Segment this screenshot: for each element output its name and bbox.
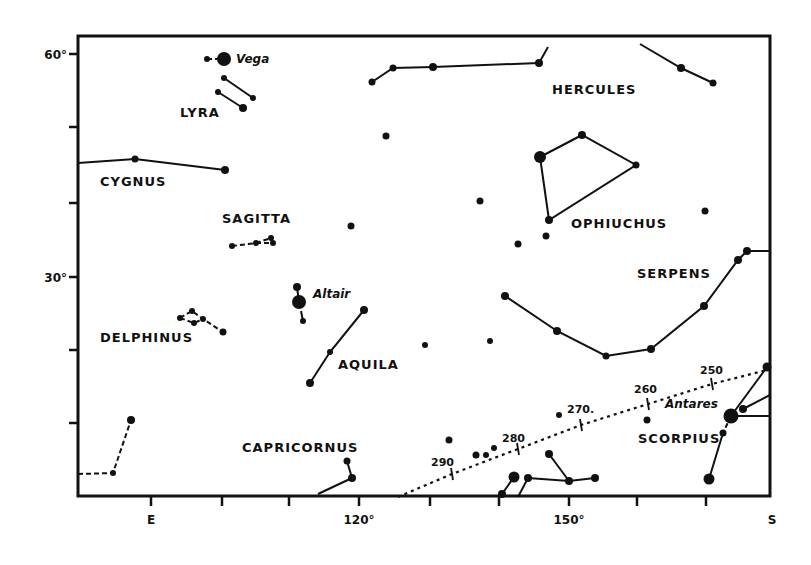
constellation-line <box>78 159 225 170</box>
y-tick-label: 30° <box>44 271 67 285</box>
star-icon <box>743 247 751 255</box>
ecliptic-tick <box>647 398 649 410</box>
star-chart: 60°30° E120°150°S LYRAHERCULESCYGNUSSAGI… <box>0 0 811 565</box>
star-icon <box>369 79 376 86</box>
star-icon <box>189 308 195 314</box>
constellation-line <box>549 454 569 481</box>
star-icon <box>348 474 356 482</box>
star-icon <box>734 256 742 264</box>
x-tick-label: S <box>768 513 777 527</box>
star-icon <box>545 216 553 224</box>
constellation-label: AQUILA <box>338 357 399 372</box>
star-icon <box>515 241 522 248</box>
constellation-label: LYRA <box>180 105 220 120</box>
constellation-label: DELPHINUS <box>100 330 193 345</box>
star-icon <box>221 75 227 81</box>
star-icon <box>239 104 247 112</box>
star-icon <box>677 64 685 72</box>
constellation-label: HERCULES <box>552 82 636 97</box>
constellation-line <box>640 44 713 83</box>
star-icon <box>491 445 497 451</box>
star-icon <box>204 56 210 62</box>
ecliptic-longitude-label: 280 <box>502 432 525 445</box>
star-icon <box>300 318 306 324</box>
star-icon <box>422 342 428 348</box>
star-icon <box>383 133 390 140</box>
star-icon <box>763 363 772 372</box>
star-icon <box>177 315 183 321</box>
star-icon <box>739 405 747 413</box>
star-icon <box>348 223 355 230</box>
star-name-label: Altair <box>312 287 351 301</box>
star-icon <box>292 295 306 309</box>
star-icon <box>132 156 139 163</box>
ecliptic-longitude-label: 290 <box>431 456 454 469</box>
y-tick-label: 60° <box>44 48 67 62</box>
constellation-label: SERPENS <box>637 266 711 281</box>
star-icon <box>344 458 351 465</box>
star-icon <box>220 329 227 336</box>
ecliptic-tick <box>580 419 582 431</box>
star-icon <box>720 430 727 437</box>
star-icon <box>200 316 206 322</box>
star-icon <box>724 409 739 424</box>
y-axis: 60°30° <box>44 48 78 423</box>
constellation-line <box>318 478 352 494</box>
star-icon <box>553 327 561 335</box>
star-icon <box>501 292 509 300</box>
star-icon <box>215 89 221 95</box>
x-tick-label: 120° <box>343 513 374 527</box>
star-icon <box>534 151 546 163</box>
star-icon <box>327 349 333 355</box>
constellation-line <box>528 478 595 481</box>
star-icon <box>446 437 453 444</box>
star-icon <box>702 208 709 215</box>
constellation-label: SAGITTA <box>222 211 291 226</box>
constellation-line <box>540 135 636 220</box>
star-icon <box>293 283 301 291</box>
star-icon <box>543 233 550 240</box>
star-icon <box>191 320 197 326</box>
constellation-line <box>218 92 243 108</box>
x-axis: E120°150°S <box>147 496 776 527</box>
constellation-label: CYGNUS <box>100 174 166 189</box>
constellation-dashed-lines <box>78 59 731 474</box>
ecliptic-tick <box>451 468 453 480</box>
constellation-label: SCORPIUS <box>638 431 720 446</box>
constellation-line <box>310 310 364 383</box>
star-icon <box>306 379 314 387</box>
star-icon <box>633 162 640 169</box>
star-icon <box>473 452 480 459</box>
constellation-label: OPHIUCHUS <box>571 216 667 231</box>
star-icon <box>498 490 506 498</box>
star-icon <box>110 470 116 476</box>
star-icon <box>477 198 484 205</box>
star-icon <box>565 477 573 485</box>
ecliptic-longitude-label: 250 <box>700 364 723 377</box>
constellation-label: CAPRICORNUS <box>242 440 358 455</box>
star-icon <box>270 240 276 246</box>
star-icon <box>487 338 493 344</box>
x-tick-label: E <box>147 513 155 527</box>
x-tick-label: 150° <box>553 513 584 527</box>
star-icon <box>700 302 708 310</box>
star-icon <box>483 452 489 458</box>
star-icon <box>221 166 229 174</box>
star-icon <box>250 95 256 101</box>
ecliptic-tick <box>711 378 713 390</box>
star-name-label: Antares <box>664 397 718 411</box>
ecliptic-longitude-label: 270. <box>567 403 594 416</box>
star-icon <box>545 450 553 458</box>
star-icon <box>535 59 543 67</box>
constellation-line <box>224 78 253 98</box>
star-icon <box>253 240 259 246</box>
ecliptic-longitude-label: 260 <box>634 383 657 396</box>
star-icon <box>556 412 562 418</box>
star-icon <box>524 474 532 482</box>
star-icon <box>644 417 651 424</box>
star-icon <box>704 474 715 485</box>
star-icon <box>127 416 135 424</box>
constellation-dashed-line <box>78 420 131 474</box>
star-icon <box>578 131 586 139</box>
star-icon <box>509 472 520 483</box>
